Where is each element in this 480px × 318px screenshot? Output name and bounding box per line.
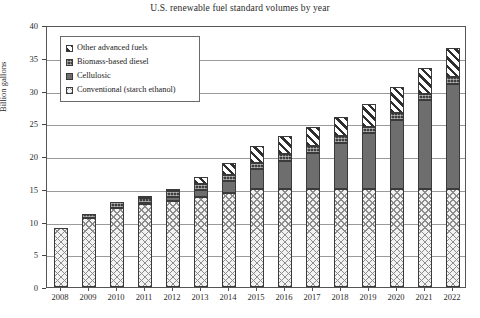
x-tick-label: 2008 <box>46 292 74 302</box>
y-axis-title: Billion gallons <box>0 62 8 112</box>
bar-segment[interactable] <box>138 196 152 198</box>
x-tick-label: 2020 <box>382 292 410 302</box>
y-tick-label: 35 <box>16 54 38 64</box>
bar-segment[interactable] <box>418 68 432 94</box>
bar-segment[interactable] <box>222 175 236 182</box>
bar-stack[interactable] <box>362 25 376 287</box>
bar-segment[interactable] <box>446 77 460 84</box>
bar-segment[interactable] <box>278 154 292 161</box>
bar-segment[interactable] <box>82 218 96 287</box>
bar-segment[interactable] <box>334 143 348 189</box>
bar-stack[interactable] <box>306 25 320 287</box>
chart-title: U.S. renewable fuel standard volumes by … <box>0 3 480 13</box>
bar-segment[interactable] <box>110 202 124 208</box>
bar-segment[interactable] <box>278 136 292 154</box>
bar-segment[interactable] <box>250 146 264 162</box>
x-tick-mark <box>368 288 369 291</box>
bar-stack[interactable] <box>222 25 236 287</box>
bar-segment[interactable] <box>390 87 404 113</box>
legend-swatch-icon <box>66 45 73 52</box>
bar-stack[interactable] <box>334 25 348 287</box>
bar-stack[interactable] <box>278 25 292 287</box>
x-tick-mark <box>396 288 397 291</box>
bar-segment[interactable] <box>110 208 124 287</box>
x-tick-mark <box>284 288 285 291</box>
bar-segment[interactable] <box>418 100 432 188</box>
bar-segment[interactable] <box>334 136 348 143</box>
legend-item[interactable]: Cellulosic <box>66 69 194 83</box>
bar-segment[interactable] <box>138 204 152 287</box>
x-tick-mark <box>144 288 145 291</box>
bar-segment[interactable] <box>194 197 208 287</box>
legend-item-label: Cellulosic <box>77 72 111 80</box>
bar-segment[interactable] <box>194 184 208 191</box>
x-tick-label: 2018 <box>326 292 354 302</box>
bar-segment[interactable] <box>334 189 348 287</box>
bar-segment[interactable] <box>138 198 152 203</box>
bar-segment[interactable] <box>54 228 68 287</box>
bar-segment[interactable] <box>278 189 292 287</box>
bar-segment[interactable] <box>390 189 404 287</box>
bar-segment[interactable] <box>222 163 236 174</box>
bar-segment[interactable] <box>446 48 460 77</box>
legend-item[interactable]: Other advanced fuels <box>66 41 194 55</box>
y-tick-label: 20 <box>16 152 38 162</box>
x-tick-label: 2021 <box>410 292 438 302</box>
legend-item[interactable]: Conventional (starch ethanol) <box>66 83 194 97</box>
x-tick-label: 2013 <box>186 292 214 302</box>
legend-swatch-icon <box>66 87 73 94</box>
chart-container: U.S. renewable fuel standard volumes by … <box>0 0 480 318</box>
x-tick-label: 2015 <box>242 292 270 302</box>
bar-segment[interactable] <box>82 214 96 218</box>
bar-segment[interactable] <box>166 197 180 200</box>
bar-segment[interactable] <box>250 189 264 287</box>
bar-segment[interactable] <box>250 169 264 189</box>
bar-segment[interactable] <box>222 181 236 192</box>
y-tick-label: 15 <box>16 185 38 195</box>
bar-segment[interactable] <box>362 189 376 287</box>
x-tick-mark <box>424 288 425 291</box>
bar-segment[interactable] <box>306 127 320 147</box>
y-tick-label: 5 <box>16 250 38 260</box>
x-tick-label: 2014 <box>214 292 242 302</box>
legend-item-label: Conventional (starch ethanol) <box>77 86 176 94</box>
y-tick-label: 25 <box>16 119 38 129</box>
bar-segment[interactable] <box>390 113 404 120</box>
x-tick-mark <box>88 288 89 291</box>
bar-segment[interactable] <box>250 163 264 170</box>
x-tick-mark <box>60 288 61 291</box>
bar-segment[interactable] <box>194 177 208 184</box>
bar-stack[interactable] <box>390 25 404 287</box>
legend-item-label: Other advanced fuels <box>77 44 148 52</box>
legend-item[interactable]: Biomass-based diesel <box>66 55 194 69</box>
bar-segment[interactable] <box>362 127 376 134</box>
bar-segment[interactable] <box>166 201 180 287</box>
bar-segment[interactable] <box>362 104 376 127</box>
y-tick-mark <box>42 288 46 289</box>
bar-segment[interactable] <box>334 117 348 137</box>
bar-stack[interactable] <box>446 25 460 287</box>
x-tick-mark <box>116 288 117 291</box>
legend-item-label: Biomass-based diesel <box>77 58 149 66</box>
bar-segment[interactable] <box>166 191 180 198</box>
x-tick-mark <box>312 288 313 291</box>
bar-segment[interactable] <box>166 189 180 191</box>
bar-segment[interactable] <box>278 161 292 189</box>
bar-stack[interactable] <box>250 25 264 287</box>
bar-segment[interactable] <box>194 190 208 197</box>
bar-segment[interactable] <box>306 146 320 153</box>
bar-segment[interactable] <box>418 94 432 101</box>
x-tick-mark <box>340 288 341 291</box>
bar-segment[interactable] <box>362 133 376 189</box>
bar-segment[interactable] <box>306 153 320 189</box>
bar-segment[interactable] <box>446 84 460 189</box>
x-tick-label: 2012 <box>158 292 186 302</box>
bar-segment[interactable] <box>222 193 236 287</box>
bar-segment[interactable] <box>418 189 432 287</box>
x-tick-mark <box>452 288 453 291</box>
bar-segment[interactable] <box>306 189 320 287</box>
bar-segment[interactable] <box>390 120 404 189</box>
x-tick-mark <box>200 288 201 291</box>
bar-stack[interactable] <box>418 25 432 287</box>
bar-segment[interactable] <box>446 189 460 287</box>
